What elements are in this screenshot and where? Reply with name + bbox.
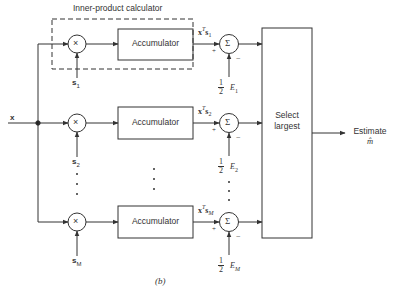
half-fraction: 12 xyxy=(218,257,224,274)
multiply-icon: × xyxy=(73,216,78,226)
energy-label-M: EM xyxy=(230,261,240,272)
group-label: Inner-product calculator xyxy=(73,3,162,13)
energy-label-2: E2 xyxy=(230,162,238,173)
energy-label-1: E1 xyxy=(230,83,238,94)
minus-sign: − xyxy=(236,232,241,241)
correlator-diagram xyxy=(0,0,396,293)
inner-product-label-M: xTsM xyxy=(198,204,213,216)
signal-label-M: sM xyxy=(72,256,81,267)
select-largest-box xyxy=(262,28,312,238)
plus-sign: + xyxy=(212,225,216,233)
input-label: x xyxy=(10,113,14,122)
multiply-icon: × xyxy=(73,117,78,127)
sigma-icon: Σ xyxy=(225,117,230,127)
plus-sign: + xyxy=(212,126,216,134)
inner-product-label-2: xTs2 xyxy=(198,105,211,117)
multiply-icon: × xyxy=(73,38,78,48)
sigma-icon: Σ xyxy=(225,216,230,226)
accumulator-label: Accumulator xyxy=(118,216,193,226)
sigma-icon: Σ xyxy=(225,38,230,48)
accumulator-label: Accumulator xyxy=(118,38,193,48)
minus-sign: − xyxy=(236,133,241,142)
output-label: Estimatem̂ xyxy=(346,126,394,146)
half-fraction: 12 xyxy=(218,158,224,175)
minus-sign: − xyxy=(236,54,241,63)
signal-label-1: s1 xyxy=(72,78,80,89)
signal-label-2: s2 xyxy=(72,157,80,168)
accumulator-label: Accumulator xyxy=(118,117,193,127)
plus-sign: + xyxy=(212,47,216,55)
inner-product-label-1: xTs1 xyxy=(198,26,211,38)
select-largest-label: Selectlargest xyxy=(262,110,312,132)
half-fraction: 12 xyxy=(218,79,224,96)
figure-caption: (b) xyxy=(155,276,166,286)
